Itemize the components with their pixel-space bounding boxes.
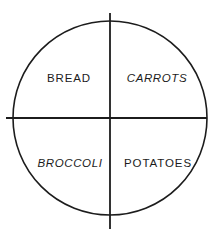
quadrant-label-top-right: CARROTS xyxy=(127,72,187,84)
quadrant-label-bottom-right: POTATOES xyxy=(124,157,192,169)
plate-diagram: BREAD CARROTS BROCCOLI POTATOES xyxy=(0,0,222,240)
quadrant-label-top-left: BREAD xyxy=(47,72,91,84)
plate-diagram-graphic xyxy=(0,0,222,240)
quadrant-label-bottom-left: BROCCOLI xyxy=(38,157,103,169)
